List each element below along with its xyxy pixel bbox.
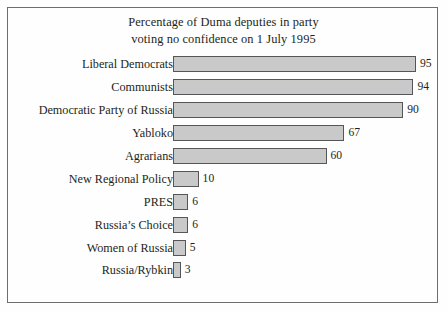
bar-value-label: 94: [417, 80, 429, 94]
bar-value-label: 90: [407, 103, 419, 117]
bar-and-value: 3: [173, 259, 190, 282]
bar-category-label: Agrarians: [0, 149, 173, 163]
bar: [173, 171, 199, 187]
bar-row: Russia’s Choice6: [8, 213, 439, 236]
bar-category-label: Communists: [0, 80, 173, 94]
bar-row: Agrarians60: [8, 145, 439, 168]
chart-title-line-1: Percentage of Duma deputies in party: [8, 14, 439, 31]
bar: [173, 240, 186, 256]
bar-row: PRES6: [8, 190, 439, 213]
bar-row: Democratic Party of Russia90: [8, 99, 439, 122]
bar: [173, 79, 413, 95]
bar-and-value: 67: [173, 122, 360, 145]
bar-chart-plot-area: Liberal Democrats95Communists94Democrati…: [8, 53, 439, 299]
chart-screenshot: Percentage of Duma deputies in party vot…: [0, 0, 448, 313]
bar-and-value: 10: [173, 167, 214, 190]
bar: [173, 56, 416, 72]
bar-category-label: Women of Russia: [0, 241, 173, 255]
bar-row: Russia/Rybkin3: [8, 259, 439, 282]
bar: [173, 125, 344, 141]
bar: [173, 194, 188, 210]
bar-category-label: PRES: [0, 195, 173, 209]
bar-category-label: Russia/Rybkin: [0, 263, 173, 277]
bar-row: Liberal Democrats95: [8, 53, 439, 76]
bar: [173, 102, 403, 118]
bar-row: Women of Russia5: [8, 236, 439, 259]
bar-value-label: 60: [331, 149, 343, 163]
bar-and-value: 95: [173, 53, 432, 76]
bar-value-label: 95: [420, 57, 432, 71]
bar-value-label: 10: [203, 172, 215, 186]
bar: [173, 217, 188, 233]
bar-and-value: 6: [173, 190, 198, 213]
bar-category-label: Democratic Party of Russia: [0, 103, 173, 117]
bar-value-label: 3: [185, 263, 191, 277]
bar-and-value: 6: [173, 213, 198, 236]
chart-title: Percentage of Duma deputies in party vot…: [8, 14, 439, 47]
bar: [173, 262, 181, 278]
bar-and-value: 5: [173, 236, 196, 259]
bar-category-label: New Regional Policy: [0, 172, 173, 186]
bar-category-label: Yabloko: [0, 126, 173, 140]
bar-category-label: Russia’s Choice: [0, 218, 173, 232]
bar-category-label: Liberal Democrats: [0, 57, 173, 71]
bar-and-value: 90: [173, 99, 419, 122]
bar-value-label: 6: [192, 195, 198, 209]
chart-frame: Percentage of Duma deputies in party vot…: [7, 7, 438, 303]
bar-and-value: 94: [173, 76, 429, 99]
bar-row: Communists94: [8, 76, 439, 99]
bar-value-label: 5: [190, 241, 196, 255]
bar-row: New Regional Policy10: [8, 167, 439, 190]
bar-value-label: 67: [348, 126, 360, 140]
bar-and-value: 60: [173, 145, 342, 168]
bar-value-label: 6: [192, 218, 198, 232]
bar: [173, 148, 327, 164]
bar-row: Yabloko67: [8, 122, 439, 145]
chart-title-line-2: voting no confidence on 1 July 1995: [8, 31, 439, 48]
